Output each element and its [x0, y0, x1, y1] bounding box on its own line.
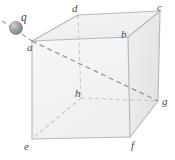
cube-diagram-svg — [0, 0, 175, 160]
vertex-label-d: d — [72, 3, 78, 14]
vertex-label-e: e — [24, 141, 29, 152]
vertex-label-a: a — [27, 42, 33, 53]
cube-charge-figure: a b c d e f g h q — [0, 0, 175, 160]
vertex-label-f: f — [131, 140, 134, 151]
charge-label-q: q — [21, 12, 27, 24]
vertex-label-c: c — [157, 2, 162, 13]
vertex-label-b: b — [121, 29, 127, 40]
vertex-label-h: h — [75, 88, 81, 99]
vertex-label-g: g — [162, 96, 168, 107]
